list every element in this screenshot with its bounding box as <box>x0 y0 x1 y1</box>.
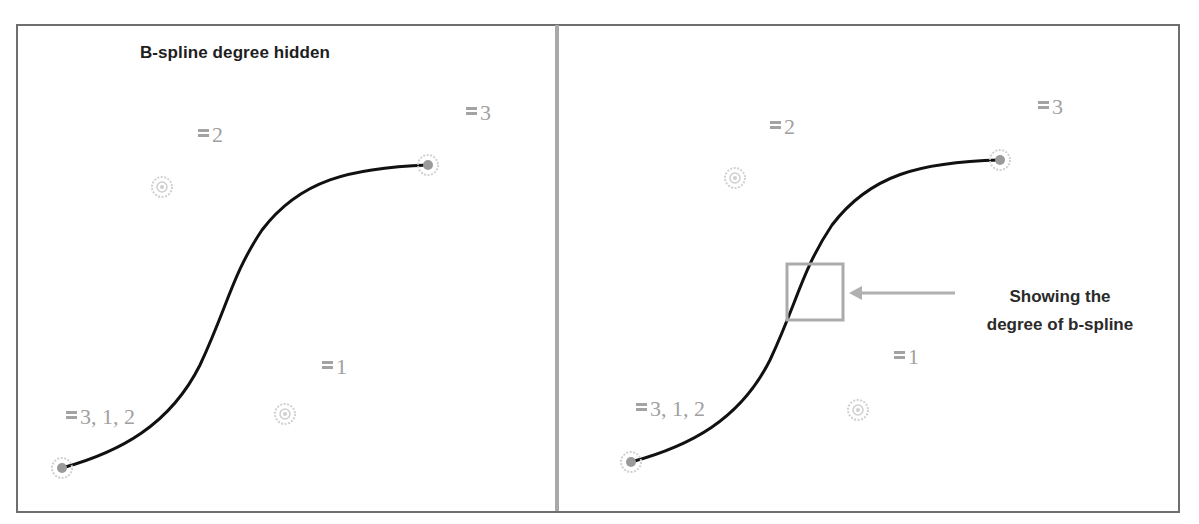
callout-line-1: Showing the <box>935 283 1185 311</box>
degree-label-text: 3 <box>1052 96 1063 118</box>
right-panel: 3, 1, 2 2 1 3 Showing the degree of b-sp… <box>0 0 1199 524</box>
degree-label-text: 2 <box>784 116 795 138</box>
right-degree-label-p2: 1 <box>894 346 919 368</box>
callout-text: Showing the degree of b-spline <box>935 283 1185 339</box>
degree-label-text: 3, 1, 2 <box>650 398 705 420</box>
degree-icon <box>770 121 781 130</box>
right-degree-label-p1: 2 <box>770 116 795 138</box>
degree-icon <box>636 403 647 412</box>
degree-icon <box>894 351 905 360</box>
degree-icon <box>1038 101 1049 110</box>
degree-label-text: 1 <box>908 346 919 368</box>
right-degree-label-p0: 3, 1, 2 <box>636 398 705 420</box>
right-degree-label-p3: 3 <box>1038 96 1063 118</box>
callout-line-2: degree of b-spline <box>935 311 1185 339</box>
